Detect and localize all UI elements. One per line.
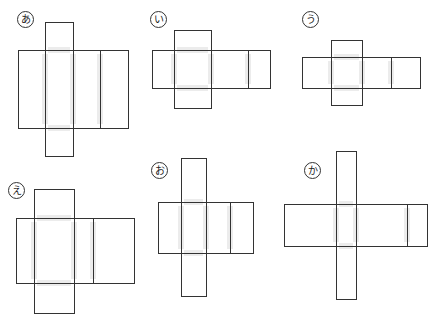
bottom-flap xyxy=(35,284,75,314)
net-label: え xyxy=(8,182,25,199)
net-label: い xyxy=(150,11,167,28)
bottom-flap xyxy=(337,247,357,300)
top-flap xyxy=(337,152,357,205)
bottom-flap xyxy=(182,254,207,297)
net-label: う xyxy=(302,11,319,28)
net-4 xyxy=(159,159,254,297)
net-label: あ xyxy=(17,11,34,28)
net-label: か xyxy=(304,162,321,179)
net-1 xyxy=(153,31,271,109)
net-2 xyxy=(303,41,421,106)
net-label: お xyxy=(151,162,168,179)
top-flap xyxy=(35,190,75,219)
top-flap xyxy=(182,159,207,203)
net-0 xyxy=(19,23,129,157)
bottom-flap xyxy=(332,89,363,106)
bottom-flap xyxy=(175,89,212,109)
box-nets-diagram xyxy=(0,0,432,316)
bottom-flap xyxy=(46,129,74,157)
top-flap xyxy=(46,23,74,51)
net-3 xyxy=(17,190,135,314)
